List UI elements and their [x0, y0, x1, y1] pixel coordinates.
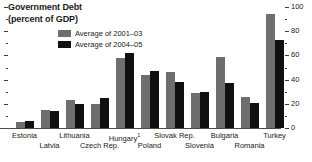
- y-tick-minor-left: [6, 92, 8, 93]
- category-label: Slovenia: [177, 141, 223, 150]
- y-tick-minor: [285, 68, 287, 69]
- category-labels: EstoniaLatviaLithuaniaCzech Rep.Hungary1…: [0, 129, 290, 159]
- bar: [250, 103, 259, 128]
- category-label: Poland: [127, 141, 173, 150]
- bar: [100, 98, 109, 128]
- y-tick-minor: [285, 19, 287, 20]
- bar: [216, 57, 225, 128]
- y-tick-mark-left: [4, 55, 8, 56]
- y-tick-mark: [285, 104, 289, 105]
- bar-group: [262, 7, 287, 128]
- bar: [50, 111, 59, 128]
- y-tick-mark-left: [4, 31, 8, 32]
- y-tick-minor-left: [6, 116, 8, 117]
- bar: [75, 104, 84, 128]
- y-tick-minor-left: [6, 68, 8, 69]
- bar: [225, 83, 234, 128]
- bar: [275, 40, 284, 128]
- bar-group: [62, 7, 87, 128]
- bar: [175, 82, 184, 128]
- y-tick-mark: [285, 55, 289, 56]
- category-label: Estonia: [2, 131, 48, 140]
- y-tick-label: 0: [291, 124, 295, 131]
- bar: [116, 58, 125, 128]
- bar: [91, 104, 100, 128]
- y-tick-label: 20: [291, 100, 299, 107]
- y-tick-mark-left: [4, 104, 8, 105]
- bar-group: [12, 7, 37, 128]
- y-tick-mark-left: [4, 7, 8, 8]
- y-tick-minor: [285, 43, 287, 44]
- category-label: Romania: [227, 141, 273, 150]
- y-tick-mark: [285, 80, 289, 81]
- bar-group: [237, 7, 262, 128]
- bar-group: [162, 7, 187, 128]
- y-tick-label: 40: [291, 76, 299, 83]
- y-tick-minor: [285, 116, 287, 117]
- y-tick-mark-left: [4, 80, 8, 81]
- bar: [241, 97, 250, 128]
- bar: [150, 71, 159, 128]
- plot-area: [10, 7, 285, 128]
- bar: [200, 92, 209, 128]
- bar: [166, 72, 175, 128]
- bar: [141, 75, 150, 128]
- category-label: Latvia: [27, 141, 73, 150]
- bar-group: [112, 7, 137, 128]
- y-tick-minor: [285, 92, 287, 93]
- bar: [125, 53, 134, 128]
- y-tick-label: 100: [291, 3, 304, 10]
- government-debt-chart: Government Debt (percent of GDP) Average…: [0, 0, 312, 162]
- bar-group: [212, 7, 237, 128]
- category-label: Slovak Rep.: [152, 131, 198, 140]
- bar: [41, 110, 50, 128]
- category-label: Bulgaria: [202, 131, 248, 140]
- category-label: Lithuania: [52, 131, 98, 140]
- bar: [25, 121, 34, 128]
- bar-group: [187, 7, 212, 128]
- y-tick-minor-left: [6, 19, 8, 20]
- y-tick-label: 80: [291, 27, 299, 34]
- y-tick-label: 60: [291, 51, 299, 58]
- y-tick-mark: [285, 7, 289, 8]
- bar-group: [87, 7, 112, 128]
- bar-group: [137, 7, 162, 128]
- category-label: Turkey: [252, 131, 298, 140]
- y-tick-mark: [285, 31, 289, 32]
- bar: [266, 14, 275, 128]
- bar-group: [37, 7, 62, 128]
- bar: [66, 100, 75, 128]
- y-tick-minor-left: [6, 43, 8, 44]
- bar: [191, 93, 200, 128]
